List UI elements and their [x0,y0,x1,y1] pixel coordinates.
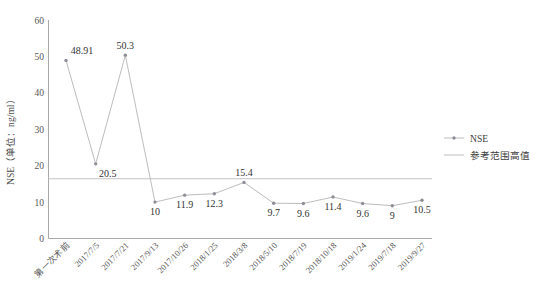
data-point[interactable] [213,192,216,195]
data-label: 11.4 [324,201,341,212]
data-label: 12.3 [206,198,224,209]
x-tick-label: 2018/5/10 [247,240,279,272]
data-label: 11.9 [176,199,193,210]
data-point[interactable] [242,181,245,184]
data-label: 20.5 [99,168,117,179]
data-label: 15.4 [235,167,253,178]
y-tick-label-10: 10 [35,198,45,208]
data-point[interactable] [420,199,423,202]
x-tick-label: 2017/7/5 [72,240,101,269]
data-label: 48.91 [71,45,94,56]
legend-item-reference-range[interactable]: 参考范围高值 [444,150,530,161]
y-axis-title: NSE（单位：ng/ml） [5,94,16,185]
y-tick-label-40: 40 [35,88,45,98]
x-tick-label: 2018/10/18 [304,240,339,275]
legend-marker-point-nse [452,136,455,139]
x-tick-label: 2019/7/18 [366,240,398,272]
data-label: 9.6 [297,208,310,219]
data-point[interactable] [64,59,67,62]
y-tick-label-30: 30 [35,125,45,135]
data-point[interactable] [183,193,186,196]
x-tick-label: 2019/9/27 [396,240,428,272]
y-tick-label-0: 0 [39,234,44,244]
nse-series-markers [64,54,423,208]
data-label: 9.7 [267,207,280,218]
legend-item-nse[interactable]: NSE [444,133,488,144]
nse-series-data-labels: 48.9120.550.31011.912.315.49.79.611.49.6… [71,40,431,220]
data-label: 10 [150,206,160,217]
x-tick-label: 2018/3/8 [221,240,250,269]
legend-label-reference-range: 参考范围高值 [470,150,530,161]
x-tick-label: 2019/1/24 [336,240,368,272]
x-tick-label: 2017/10/26 [155,240,190,275]
data-label: 9 [390,210,395,221]
data-point[interactable] [272,201,275,204]
data-point[interactable] [124,54,127,57]
x-tick-label: 2017/7/21 [99,240,131,272]
x-tick-label: 第一次术前 [32,240,72,280]
chart-legend: NSE 参考范围高值 [444,133,530,161]
data-point[interactable] [153,200,156,203]
data-point[interactable] [94,162,97,165]
y-tick-label-20: 20 [35,161,45,171]
x-axis-labels: 第一次术前2017/7/52017/7/212017/9/132017/10/2… [32,240,428,280]
chart-canvas: NSE（单位：ng/ml） 60 50 40 30 20 10 0 48.912… [0,0,554,308]
y-tick-label-60: 60 [35,16,45,26]
nse-trend-chart: NSE（单位：ng/ml） 60 50 40 30 20 10 0 48.912… [0,0,554,308]
data-point[interactable] [302,202,305,205]
data-label: 50.3 [117,40,135,51]
data-label: 10.5 [413,204,431,215]
data-point[interactable] [361,202,364,205]
data-point[interactable] [391,204,394,207]
data-point[interactable] [331,195,334,198]
data-label: 9.6 [356,208,369,219]
legend-label-nse: NSE [470,133,488,144]
y-tick-label-50: 50 [35,52,45,62]
x-tick-label: 2018/1/25 [188,240,220,272]
nse-series-group: 48.9120.550.31011.912.315.49.79.611.49.6… [64,40,430,220]
